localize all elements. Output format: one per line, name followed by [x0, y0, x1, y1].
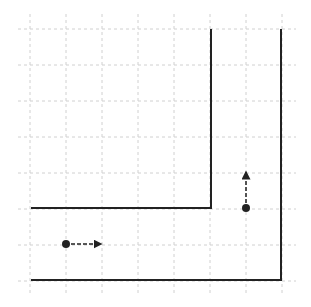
agent-dot-icon — [242, 204, 250, 212]
agents — [62, 172, 250, 248]
grid-diagram — [0, 0, 311, 307]
agent-dot-icon — [62, 240, 70, 248]
agent-left — [62, 240, 101, 248]
grid-lines — [18, 14, 296, 296]
agent-right — [242, 172, 250, 212]
inner-wall — [31, 29, 211, 208]
